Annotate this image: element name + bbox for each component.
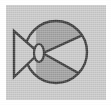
valve-symbol-diagram bbox=[6, 5, 106, 100]
icon-panel bbox=[6, 5, 106, 100]
valve-disc-ellipse bbox=[34, 44, 44, 62]
screenshot-root bbox=[0, 0, 111, 105]
